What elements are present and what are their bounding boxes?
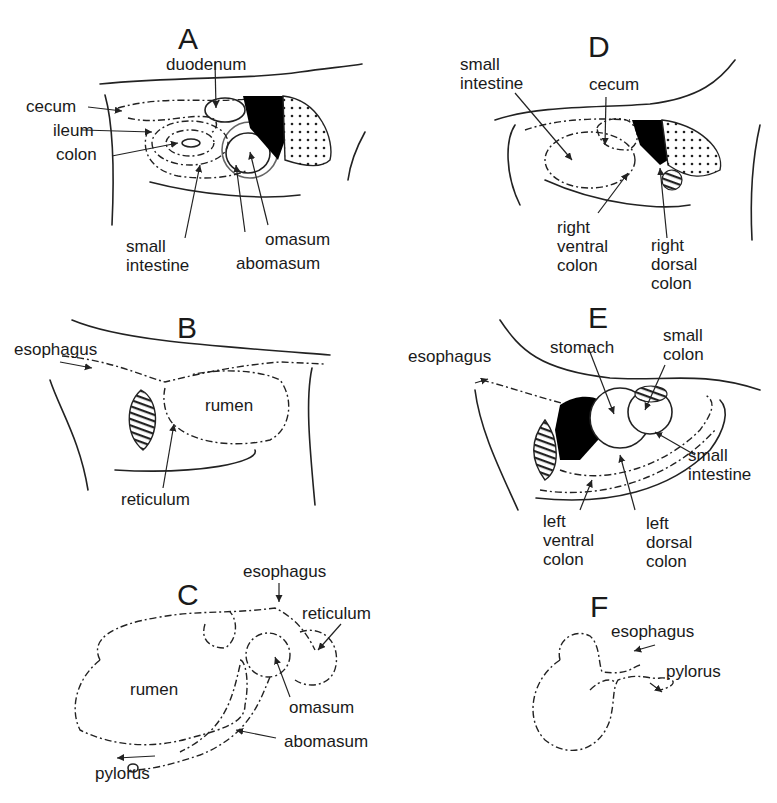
label-c-omasum: omasum bbox=[289, 698, 354, 717]
panel-letter-f: F bbox=[590, 592, 608, 622]
label-f-pylorus: pylorus bbox=[666, 662, 721, 681]
panel-f-drawing bbox=[533, 633, 673, 750]
label-c-reticulum: reticulum bbox=[302, 604, 371, 623]
label-c-abomasum: abomasum bbox=[284, 732, 368, 751]
label-f-esophagus: esophagus bbox=[611, 622, 694, 641]
label-a-ileum: ileum bbox=[53, 121, 94, 140]
label-e-left-dorsal-colon: left dorsal colon bbox=[646, 514, 692, 571]
panel-letter-b: B bbox=[177, 313, 197, 343]
label-e-esophagus: esophagus bbox=[408, 347, 491, 366]
label-c-rumen: rumen bbox=[130, 680, 178, 699]
label-d-cecum: cecum bbox=[589, 75, 639, 94]
label-e-left-ventral-colon: left ventral colon bbox=[543, 512, 594, 569]
label-a-duodenum: duodenum bbox=[166, 55, 246, 74]
panel-a-drawing bbox=[100, 64, 365, 225]
anatomy-figure: A B C D E F duodenum cecum ileum colon s… bbox=[0, 0, 777, 803]
label-d-small-intestine: small intestine bbox=[460, 55, 523, 93]
label-a-abomasum: abomasum bbox=[236, 254, 320, 273]
label-b-reticulum: reticulum bbox=[121, 490, 190, 509]
panel-letter-a: A bbox=[178, 24, 198, 54]
panel-letter-d: D bbox=[588, 32, 610, 62]
label-d-right-dorsal-colon: right dorsal colon bbox=[651, 236, 697, 293]
label-a-cecum: cecum bbox=[26, 97, 76, 116]
label-d-right-ventral-colon: right ventral colon bbox=[557, 218, 608, 275]
panel-letter-c: C bbox=[177, 580, 199, 610]
label-b-rumen: rumen bbox=[205, 396, 253, 415]
label-a-small-intestine: small intestine bbox=[126, 237, 189, 275]
label-a-omasum: omasum bbox=[265, 230, 330, 249]
label-c-pylorus: pylorus bbox=[95, 764, 150, 783]
label-e-small-colon: small colon bbox=[663, 326, 704, 364]
panel-letter-e: E bbox=[588, 303, 608, 333]
label-e-small-intestine: small intestine bbox=[688, 446, 751, 484]
label-b-esophagus: esophagus bbox=[14, 340, 97, 359]
label-c-esophagus: esophagus bbox=[243, 562, 326, 581]
drawing-layer bbox=[0, 0, 777, 803]
label-e-stomach: stomach bbox=[550, 338, 614, 357]
label-a-colon: colon bbox=[56, 145, 97, 164]
